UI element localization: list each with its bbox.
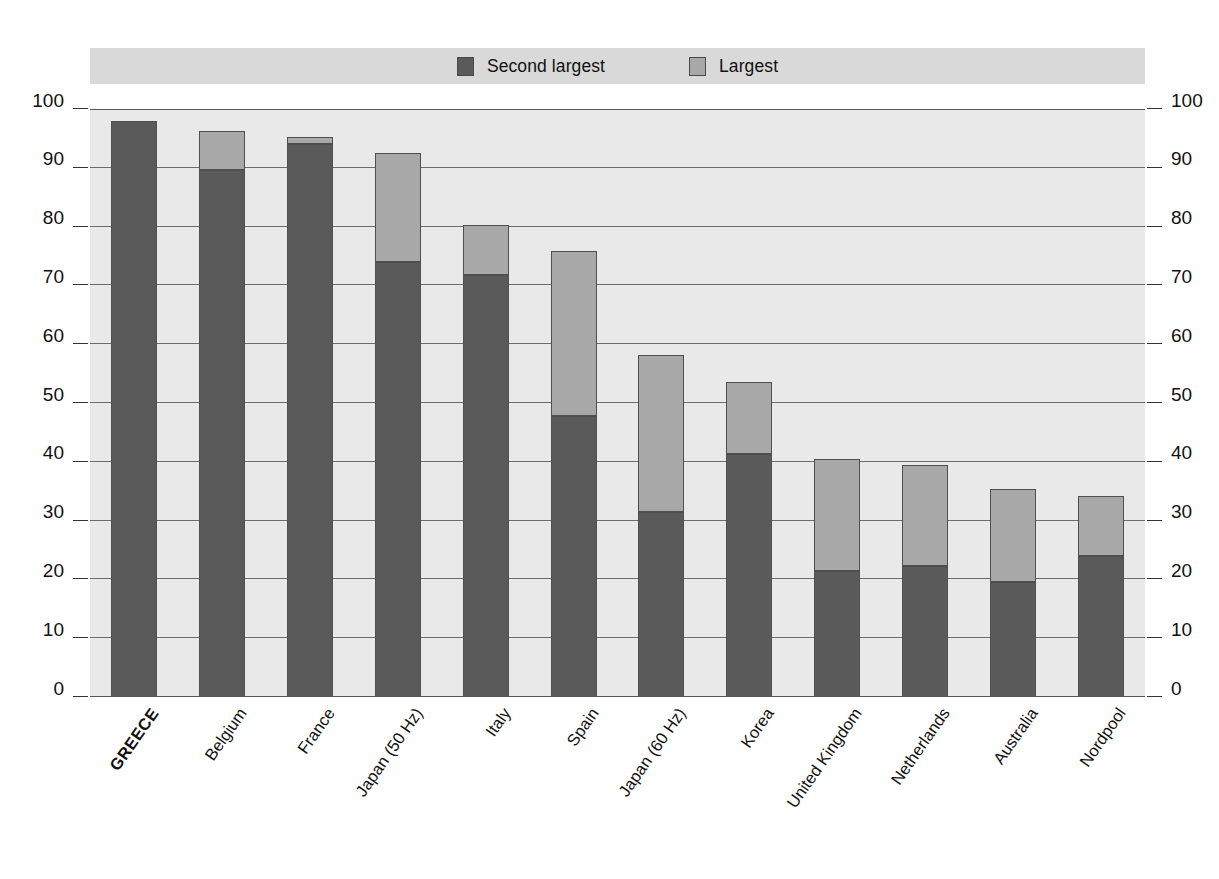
bar-segment-second-largest[interactable] — [1078, 556, 1124, 697]
bar-segment-largest[interactable] — [814, 459, 860, 570]
axis-left-tick-30 — [73, 520, 88, 521]
axis-left-label-40: 40 — [43, 443, 64, 462]
bar-segment-second-largest[interactable] — [463, 275, 509, 697]
bar-segment-largest[interactable] — [199, 131, 245, 170]
x-axis-label: GREECE — [107, 705, 162, 774]
axis-right-label-60: 60 — [1171, 325, 1192, 344]
bar-segment-second-largest[interactable] — [814, 571, 860, 697]
bar-segment-largest[interactable] — [375, 153, 421, 262]
axis-left-label-50: 50 — [43, 384, 64, 403]
x-axis-label: United Kingdom — [784, 705, 865, 811]
axis-left-label-0: 0 — [53, 678, 64, 697]
bar-segment-second-largest[interactable] — [990, 582, 1036, 697]
bar-group[interactable] — [638, 109, 684, 697]
x-axis-label: Australia — [990, 705, 1040, 767]
bar-segment-second-largest[interactable] — [199, 170, 245, 697]
axis-right-label-80: 80 — [1171, 208, 1192, 227]
axis-left-label-60: 60 — [43, 325, 64, 344]
bar-group[interactable] — [463, 109, 509, 697]
bar-segment-largest[interactable] — [1078, 496, 1124, 557]
axis-left-tick-100 — [73, 108, 88, 109]
axis-right-label-50: 50 — [1171, 384, 1192, 403]
axis-left-tick-20 — [73, 578, 88, 579]
bar-segment-largest[interactable] — [990, 489, 1036, 582]
bar-segment-largest[interactable] — [638, 355, 684, 512]
legend-item-largest: Largest — [689, 56, 778, 77]
legend-swatch-largest — [689, 57, 706, 76]
axis-right-tick-50 — [1147, 402, 1162, 403]
chart-legend: Second largest Largest — [90, 48, 1145, 84]
bar-group[interactable] — [902, 109, 948, 697]
axis-left-label-30: 30 — [43, 502, 64, 521]
x-axis-label: Nordpool — [1077, 705, 1129, 769]
x-axis-label: Japan (60 Hz) — [616, 705, 689, 799]
bar-group[interactable] — [111, 109, 157, 697]
bar-segment-second-largest[interactable] — [902, 566, 948, 697]
bar-segment-largest[interactable] — [902, 465, 948, 566]
bar-group[interactable] — [814, 109, 860, 697]
bars-layer — [90, 110, 1145, 697]
axis-left-tick-40 — [73, 461, 88, 462]
bar-segment-largest[interactable] — [463, 225, 509, 276]
legend-label-second-largest: Second largest — [487, 56, 605, 77]
x-axis-label: Spain — [563, 705, 601, 749]
legend-item-second-largest: Second largest — [457, 56, 605, 77]
bar-segment-largest[interactable] — [287, 137, 333, 144]
bar-segment-second-largest[interactable] — [375, 262, 421, 697]
axis-left-label-70: 70 — [43, 266, 64, 285]
bar-group[interactable] — [726, 109, 772, 697]
x-axis-label: Belgium — [202, 705, 250, 763]
axis-left-tick-10 — [73, 637, 88, 638]
axis-left-label-20: 20 — [43, 560, 64, 579]
axis-right-label-0: 0 — [1171, 678, 1182, 697]
legend-label-largest: Largest — [719, 56, 778, 77]
axis-right-label-20: 20 — [1171, 560, 1192, 579]
bar-segment-largest[interactable] — [726, 382, 772, 454]
axis-right-tick-30 — [1147, 520, 1162, 521]
axis-left-tick-70 — [73, 284, 88, 285]
axis-left-label-100: 100 — [32, 90, 64, 109]
axis-right-label-70: 70 — [1171, 266, 1192, 285]
bar-segment-largest[interactable] — [551, 251, 597, 416]
axis-right-tick-20 — [1147, 578, 1162, 579]
axis-right-tick-80 — [1147, 226, 1162, 227]
bar-segment-second-largest[interactable] — [551, 416, 597, 697]
axis-left-tick-80 — [73, 226, 88, 227]
bar-segment-second-largest[interactable] — [287, 144, 333, 697]
axis-left-label-10: 10 — [43, 619, 64, 638]
axis-right-label-10: 10 — [1171, 619, 1192, 638]
x-axis-label: Japan (50 Hz) — [352, 705, 425, 799]
axis-right-tick-40 — [1147, 461, 1162, 462]
legend-swatch-second-largest — [457, 57, 474, 76]
x-axis-label: Korea — [738, 705, 777, 751]
plot-area — [90, 109, 1145, 697]
bar-group[interactable] — [551, 109, 597, 697]
axis-right-tick-10 — [1147, 637, 1162, 638]
bar-segment-second-largest[interactable] — [726, 454, 772, 697]
axis-right-tick-90 — [1147, 167, 1162, 168]
axis-left-tick-90 — [73, 167, 88, 168]
axis-left-tick-0 — [73, 696, 88, 697]
chart-root: Second largest Largest 01020304050607080… — [0, 0, 1219, 879]
x-axis-label: Netherlands — [888, 705, 953, 787]
axis-right-tick-100 — [1147, 108, 1162, 109]
axis-left-label-80: 80 — [43, 208, 64, 227]
axis-right-tick-60 — [1147, 343, 1162, 344]
axis-left-label-90: 90 — [43, 149, 64, 168]
axis-right-tick-70 — [1147, 284, 1162, 285]
bar-group[interactable] — [375, 109, 421, 697]
x-axis-category-labels: GREECEBelgiumFranceJapan (50 Hz)ItalySpa… — [90, 697, 1145, 867]
axis-right-label-40: 40 — [1171, 443, 1192, 462]
axis-right-label-90: 90 — [1171, 149, 1192, 168]
bar-segment-second-largest[interactable] — [111, 121, 157, 697]
axis-right-label-100: 100 — [1171, 90, 1203, 109]
bar-group[interactable] — [1078, 109, 1124, 697]
x-axis-label: France — [294, 705, 337, 757]
bar-segment-second-largest[interactable] — [638, 512, 684, 697]
axis-right-tick-0 — [1147, 696, 1162, 697]
axis-left-tick-50 — [73, 402, 88, 403]
bar-group[interactable] — [287, 109, 333, 697]
x-axis-label: Italy — [482, 705, 513, 739]
bar-group[interactable] — [990, 109, 1036, 697]
bar-group[interactable] — [199, 109, 245, 697]
